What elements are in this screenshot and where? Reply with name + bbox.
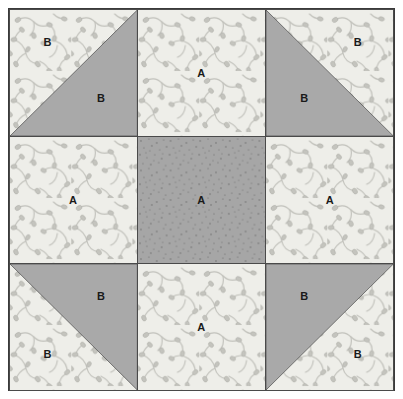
patch-label-a: A xyxy=(326,194,334,205)
quilt-cell-middle-left: A xyxy=(9,136,138,264)
triangle-gray-upper-left xyxy=(266,264,393,390)
patch-label-a: A xyxy=(197,321,205,332)
quilt-cell-bottom-left: B B xyxy=(9,263,138,391)
quilt-cell-middle-center: A xyxy=(137,136,266,264)
quilt-block-diagram: B B A B B A xyxy=(8,8,395,391)
patch-label-b: B xyxy=(44,37,52,48)
triangle-gray-lower-left xyxy=(266,10,393,136)
patch-label-b: B xyxy=(97,291,105,302)
quilt-cell-middle-right: A xyxy=(265,136,394,264)
patch-label-a: A xyxy=(197,67,205,78)
patch-label-b: B xyxy=(354,349,362,360)
triangle-gray-upper-right xyxy=(10,264,137,390)
quilt-cell-top-center: A xyxy=(137,9,266,137)
patch-label-b: B xyxy=(300,92,308,103)
quilt-cell-top-left: B B xyxy=(9,9,138,137)
quilt-cell-bottom-center: A xyxy=(137,263,266,391)
patch-label-b: B xyxy=(300,291,308,302)
patch-label-b: B xyxy=(44,349,52,360)
patch-label-a: A xyxy=(197,194,205,205)
patch-label-a: A xyxy=(69,194,77,205)
quilt-cell-top-right: B B xyxy=(265,9,394,137)
patch-label-b: B xyxy=(354,37,362,48)
triangle-gray-lower-right xyxy=(10,10,137,136)
patch-label-b: B xyxy=(97,92,105,103)
quilt-cell-bottom-right: B B xyxy=(265,263,394,391)
